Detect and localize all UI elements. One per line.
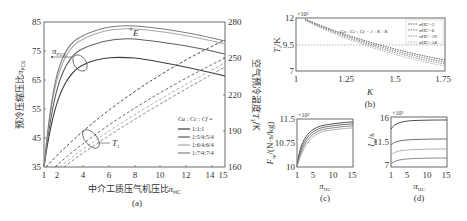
legend-item: πHC=14 <box>419 40 437 45</box>
curve-isp-1-1-1 <box>391 120 447 129</box>
figure-canvas: 1 2 4 6 8 10 12 14 15 35 45 55 65 75 85 … <box>0 0 467 221</box>
tick-label: 1 <box>389 170 394 180</box>
panel-a-annotations: πPCS T1 E <box>51 28 139 151</box>
tick-label: 55 <box>32 104 42 114</box>
panel-c-caption: (c) <box>320 193 330 203</box>
panel-b-caption: (b) <box>365 99 376 109</box>
tick-label: 12 <box>182 170 191 180</box>
pcs-annotation: πPCS <box>52 46 66 57</box>
legend-title: Ca : Cc : Cf = <box>178 116 213 122</box>
panel-a-y-right-title: 空气预冷温度T1/K <box>250 59 262 131</box>
panel-c-y-axis-title: Fsp/(N·s/kg) <box>265 122 276 166</box>
panel-c-curves <box>297 122 353 167</box>
tick-label: 10 <box>329 170 339 180</box>
tick-label: 14 <box>206 170 216 180</box>
panel-d-frame <box>391 117 447 167</box>
legend-item: 1:6/4:6/4 <box>192 142 214 148</box>
tick-label: 12 <box>285 13 294 23</box>
multiplier-label: ×10² <box>297 11 308 17</box>
panel-a-x-axis-title: 中介工质压气机压比πHC <box>88 183 181 195</box>
legend-item: πHC=10 <box>419 34 437 39</box>
tick-label: 65 <box>32 75 42 85</box>
tick-label: 220 <box>228 90 242 100</box>
tick-label: 1.25 <box>338 74 354 84</box>
ratio-note: Ca : Cc : Cf = 1 : K : K <box>340 29 388 34</box>
legend-item: 1:7/4:7/4 <box>192 150 214 156</box>
tick-label: 280 <box>228 17 242 27</box>
tick-label: 10 <box>156 170 166 180</box>
panel-d-y-axis-title: Isp/s <box>366 133 377 148</box>
legend-item: πHC=2 <box>419 22 435 27</box>
panel-d: ×10³ 16 11.5 7 1 5 10 15 πHC Isp/s (d) <box>366 110 451 203</box>
panel-d-x-axis-title: πHC <box>413 181 425 192</box>
tick-label: 1 <box>295 170 300 180</box>
panel-a-y-right-ticks: 160 190 220 250 280 <box>223 17 242 172</box>
tick-label: 5 <box>311 170 316 180</box>
curve-isp-1-6-4 <box>391 149 447 155</box>
tick-label: 4 <box>81 170 86 180</box>
tick-label: 2 <box>55 170 60 180</box>
panel-c: ×10² 11.5 10.75 10 1 5 10 15 πHC Fsp/(N·… <box>265 112 357 203</box>
panel-b: ×10² 12 9.5 7 1 1.25 1.5 1.75 Ca : Cc : … <box>272 11 451 109</box>
tick-label: 1.75 <box>435 74 451 84</box>
tick-label: 7 <box>385 160 390 170</box>
tick-label: 6 <box>107 170 112 180</box>
tick-label: 75 <box>32 46 42 56</box>
point-e-label: E <box>132 28 139 38</box>
tick-label: 250 <box>228 53 242 63</box>
panel-d-caption: (d) <box>414 193 425 203</box>
panel-b-x-axis-title: K <box>366 87 374 97</box>
tick-label: 160 <box>228 162 242 172</box>
tick-label: 8 <box>133 170 138 180</box>
t1-ellipse-marker <box>79 127 102 152</box>
tick-label: 11.5 <box>280 114 296 124</box>
tick-label: 15 <box>348 170 358 180</box>
tick-label: 1 <box>42 170 47 180</box>
tick-label: 85 <box>32 17 42 27</box>
tick-label: 15 <box>219 170 229 180</box>
tick-label: 15 <box>442 170 452 180</box>
tick-label: 10 <box>423 170 433 180</box>
panel-b-y-axis-title: Tf/K <box>272 37 283 53</box>
legend-item: πHC=6 <box>419 28 435 33</box>
tick-label: 1.5 <box>389 74 401 84</box>
tick-label: 190 <box>228 126 242 136</box>
tick-label: 45 <box>32 133 42 143</box>
panel-b-legend: πHC=2 πHC=6 πHC=10 πHC=14 <box>406 20 443 45</box>
panel-a-caption: (a) <box>132 198 142 208</box>
curve-fsp-1-7-4 <box>297 128 353 167</box>
multiplier-label: ×10³ <box>392 110 403 116</box>
panel-a: 1 2 4 6 8 10 12 14 15 35 45 55 65 75 85 … <box>14 17 262 208</box>
curve-isp-1-7-4 <box>391 158 447 164</box>
legend-item: 1:1:1 <box>192 126 204 132</box>
curve-isp-1-5-4 <box>391 139 447 145</box>
tick-label: 1 <box>294 74 299 84</box>
panel-a-y-left-title: 预冷压缩压比πPCS <box>14 61 26 129</box>
legend-item: 1:5/4:5/4 <box>192 134 214 140</box>
tick-label: 35 <box>32 162 42 172</box>
tick-label: 9.5 <box>283 40 295 50</box>
tick-label: 5 <box>405 170 410 180</box>
panel-d-curves <box>391 120 447 164</box>
t1-annotation: T1 <box>112 138 120 149</box>
panel-c-x-axis-title: πHC <box>319 181 331 192</box>
tick-label: 10.75 <box>275 138 296 148</box>
multiplier-label: ×10² <box>298 112 309 118</box>
panel-a-legend: Ca : Cc : Cf = 1:1:1 1:5/4:5/4 1:6/4:6/4… <box>178 116 214 156</box>
tick-label: 16 <box>380 113 390 123</box>
